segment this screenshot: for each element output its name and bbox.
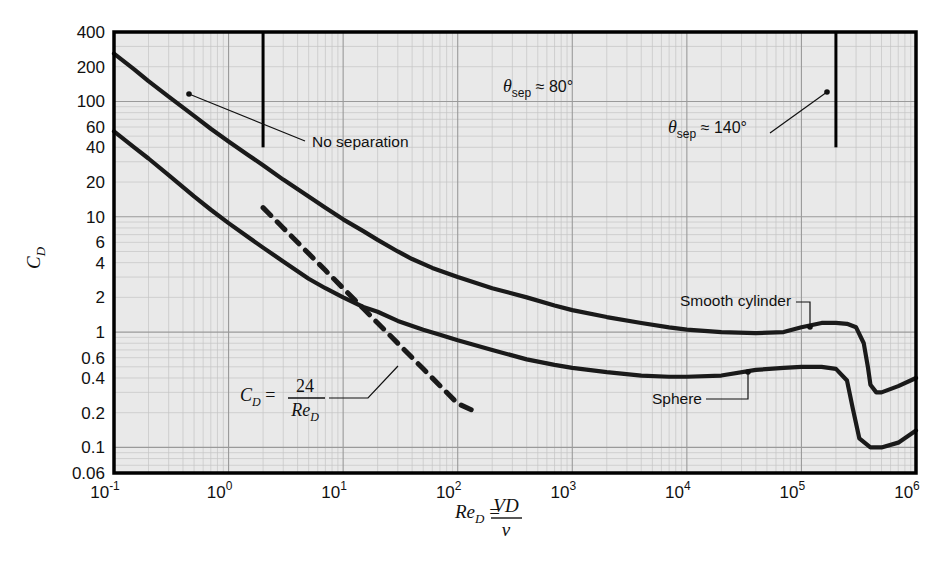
annotation-no-separation: No separation — [312, 133, 409, 150]
leader-dot — [186, 91, 192, 97]
y-tick-label: 100 — [77, 92, 105, 111]
x-axis-title-numerator: VD — [493, 495, 519, 516]
y-tick-label: 0.06 — [72, 464, 105, 483]
x-axis-title-denominator: ν — [502, 519, 511, 540]
y-tick-label: 20 — [86, 173, 105, 192]
stokes-numerator: 24 — [296, 376, 314, 396]
y-tick-label: 10 — [86, 208, 105, 227]
leader-dot — [824, 89, 830, 95]
y-tick-label: 400 — [77, 23, 105, 42]
drag-coefficient-chart: 4002001006040201064210.60.40.20.10.0610-… — [0, 0, 939, 562]
y-tick-label: 40 — [86, 138, 105, 157]
y-tick-label: 1 — [96, 323, 105, 342]
y-tick-label: 0.6 — [81, 349, 105, 368]
y-tick-label: 6 — [96, 233, 105, 252]
label-smooth-cylinder: Smooth cylinder — [680, 292, 791, 309]
leader-dot — [745, 369, 751, 375]
y-tick-label: 200 — [77, 58, 105, 77]
y-tick-label: 0.4 — [81, 369, 105, 388]
y-tick-label: 2 — [96, 288, 105, 307]
y-tick-label: 0.2 — [81, 404, 105, 423]
y-tick-label: 0.1 — [81, 438, 105, 457]
label-sphere: Sphere — [652, 390, 702, 407]
y-tick-label: 60 — [86, 118, 105, 137]
plot-area: 4002001006040201064210.60.40.20.10.0610-… — [23, 23, 920, 540]
y-tick-label: 4 — [96, 254, 105, 273]
leader-dot — [807, 324, 813, 330]
